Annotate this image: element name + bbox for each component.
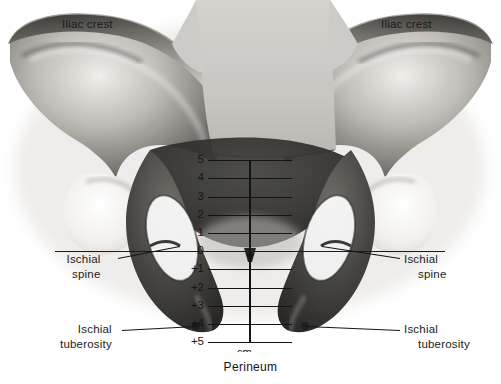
annotation-line-2: tuberosity — [60, 337, 112, 352]
annotation-line-1: Ischial — [404, 322, 470, 337]
radiograph-plate: 543210+1+2+3+4+5cm. Iliac crestIliac cre… — [0, 0, 501, 352]
annotation-layer: Iliac crestIliac crestIschialspineIschia… — [0, 0, 501, 352]
annotation-line-1: Iliac crest — [381, 18, 432, 31]
figure-caption: Perineum — [0, 360, 501, 374]
annotation-ischial-spine-left: Ischialspine — [62, 252, 101, 282]
leader-line-ischial-tuberosity-right — [306, 326, 400, 331]
annotation-line-2: spine — [72, 267, 101, 282]
leader-line-ischial-spine-right — [322, 246, 400, 259]
annotation-ischial-tuberosity-left: Ischialtuberosity — [50, 322, 112, 352]
annotation-ischial-spine-right: Ischialspine — [404, 252, 447, 282]
annotation-line-2: tuberosity — [418, 337, 470, 352]
pelvis-station-figure: 543210+1+2+3+4+5cm. Iliac crestIliac cre… — [0, 0, 501, 384]
annotation-line-2: spine — [418, 267, 447, 282]
leader-line-ischial-tuberosity-left — [122, 326, 196, 331]
annotation-iliac-crest-left: Iliac crest — [62, 18, 113, 31]
annotation-ischial-tuberosity-right: Ischialtuberosity — [404, 322, 470, 352]
annotation-iliac-crest-right: Iliac crest — [381, 18, 432, 31]
leader-line-ischial-spine-left — [118, 246, 180, 259]
annotation-line-1: Ischial — [404, 252, 447, 267]
annotation-line-1: Ischial — [50, 322, 112, 337]
annotation-line-1: Iliac crest — [62, 18, 113, 31]
annotation-line-1: Ischial — [62, 252, 101, 267]
